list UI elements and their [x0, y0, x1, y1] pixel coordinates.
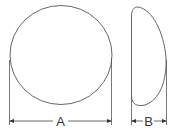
dimension-label-a: A [56, 114, 65, 129]
dimension-label-b: B [144, 114, 153, 129]
side-view-outline [132, 7, 167, 106]
implant-dimension-diagram: A B [0, 0, 172, 137]
side-view: B [132, 7, 167, 129]
front-view-outline [10, 6, 112, 105]
front-view: A [10, 6, 113, 130]
